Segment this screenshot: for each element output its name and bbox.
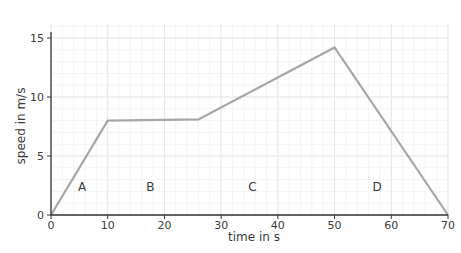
speed-time-chart: 010203040506070051015 ABCD time in s spe…: [0, 0, 461, 253]
x-tick-label: 60: [384, 219, 398, 232]
region-label-b: B: [146, 180, 154, 194]
x-tick-label: 70: [441, 219, 455, 232]
x-tick-label: 0: [48, 219, 55, 232]
y-tick-label: 5: [37, 150, 44, 163]
region-label-c: C: [248, 180, 256, 194]
region-label-d: D: [372, 180, 381, 194]
x-tick-label: 10: [101, 219, 115, 232]
region-label-a: A: [78, 180, 87, 194]
y-axis-label: speed in m/s: [14, 88, 28, 165]
x-axis-label: time in s: [228, 230, 280, 244]
y-tick-label: 10: [30, 91, 44, 104]
x-tick-label: 30: [214, 219, 228, 232]
y-tick-label: 15: [30, 32, 44, 45]
x-tick-label: 20: [157, 219, 171, 232]
x-tick-label: 50: [328, 219, 342, 232]
y-tick-label: 0: [37, 209, 44, 222]
